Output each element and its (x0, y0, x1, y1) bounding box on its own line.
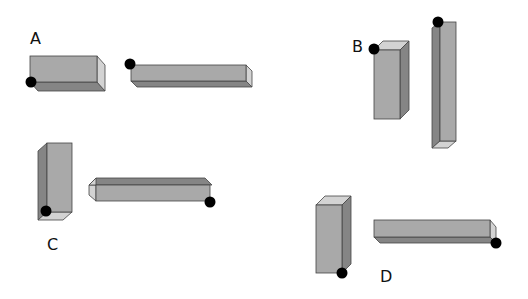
label-a: A (30, 29, 41, 48)
group-a: A (26, 29, 253, 91)
marker-dot (125, 59, 136, 70)
group-d: D (316, 196, 502, 286)
marker-dot (41, 206, 52, 217)
block-front-face (131, 65, 246, 81)
marker-dot (369, 44, 380, 55)
marker-dot (433, 17, 444, 28)
label-c: C (47, 235, 58, 254)
label-d: D (380, 267, 392, 286)
group-b: B (352, 17, 456, 149)
block-side-face (432, 22, 440, 148)
marker-dot (337, 268, 348, 279)
block-front-face (96, 185, 210, 201)
block-bottom-face (30, 82, 105, 91)
block-front-face (374, 50, 400, 119)
block-side-face (342, 196, 351, 273)
group-d-block-1 (316, 196, 351, 279)
group-a-block-1 (26, 56, 106, 91)
block-front-face (316, 205, 342, 273)
group-c-block-1 (38, 143, 72, 220)
label-b: B (352, 37, 363, 56)
group-b-block-2 (432, 17, 456, 149)
block-side-face (400, 41, 409, 119)
block-top-face (89, 178, 212, 185)
group-c: C (38, 143, 216, 254)
marker-dot (491, 238, 502, 249)
marker-dot (26, 77, 37, 88)
block-front-face (374, 220, 490, 237)
group-b-block-1 (369, 41, 410, 119)
mental-rotation-diagram: A B C (0, 0, 528, 299)
block-bottom-face (374, 237, 496, 243)
block-end-corner (89, 178, 96, 185)
marker-dot (205, 197, 216, 208)
group-a-block-2 (125, 59, 253, 88)
group-d-block-2 (374, 220, 502, 249)
block-front-face (47, 143, 72, 212)
group-c-block-2 (89, 178, 216, 208)
block-front-face (440, 22, 456, 141)
block-front-face (30, 56, 97, 82)
block-end-face (89, 185, 96, 201)
block-bottom-face (131, 81, 252, 87)
